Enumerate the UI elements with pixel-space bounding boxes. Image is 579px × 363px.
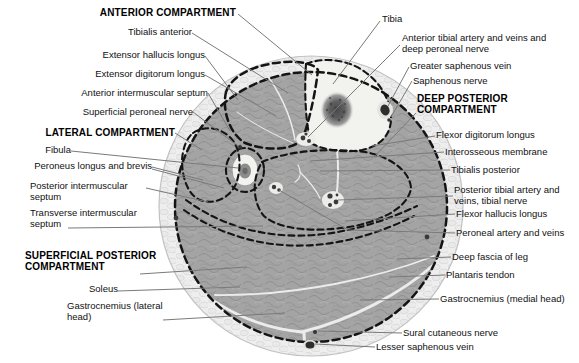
label-tibia: Tibia: [382, 14, 402, 25]
superficial-peroneal-nerve-dot: [238, 145, 242, 149]
label-peroneus-longus-and-brevis: Peroneus longus and brevis: [34, 161, 152, 172]
label-extensor-digitorum-longus: Extensor digitorum longus: [95, 69, 205, 80]
label-interosseous-membrane: Interosseous membrane: [445, 147, 547, 158]
label-superficial-posterior-compartment: SUPERFICIAL POSTERIOR COMPARTMENT: [25, 250, 183, 272]
label-extensor-hallucis-longus: Extensor hallucis longus: [103, 50, 205, 61]
label-saphenous-nerve: Saphenous nerve: [413, 76, 487, 87]
label-gastrocnemius-lateral-head: Gastrocnemius (lateral head): [67, 301, 163, 322]
label-tibialis-anterior: Tibialis anterior: [128, 27, 192, 38]
label-lesser-saphenous-vein: Lesser saphenous vein: [376, 342, 474, 353]
label-posterior-tibial-artery: Posterior tibial artery and veins, tibia…: [454, 185, 572, 206]
label-flexor-hallucis-longus: Flexor hallucis longus: [456, 209, 547, 220]
sural-cutaneous-nerve-dot: [313, 330, 317, 334]
label-tibialis-posterior: Tibialis posterior: [451, 165, 520, 176]
label-posterior-intermuscular-septum: Posterior intermuscular septum: [30, 181, 145, 202]
label-gastrocnemius-medial-head: Gastrocnemius (medial head): [440, 294, 565, 305]
label-greater-saphenous-vein: Greater saphenous vein: [410, 61, 511, 72]
label-peroneal-artery-and-veins: Peroneal artery and veins: [456, 228, 564, 239]
fibula-bone: [232, 154, 258, 186]
medial-fascia-vessel-dot: [425, 235, 430, 240]
label-flexor-digitorum-longus: Flexor digitorum longus: [436, 130, 535, 141]
label-deep-fascia-of-leg: Deep fascia of leg: [452, 252, 528, 263]
label-soleus: Soleus: [89, 284, 118, 295]
label-anterior-intermuscular-septum: Anterior intermuscular septum: [81, 88, 208, 99]
lesser-saphenous-vein-dot: [306, 342, 315, 349]
label-deep-posterior-compartment: DEEP POSTERIOR COMPARTMENT: [417, 93, 535, 115]
lateral-fascia-vessel-dot: [174, 216, 179, 221]
saphenous-nerve-dot: [387, 118, 391, 122]
label-anterior-compartment: ANTERIOR COMPARTMENT: [100, 7, 236, 18]
label-superficial-peroneal-nerve: Superficial peroneal nerve: [83, 107, 193, 118]
figure-canvas: ANTERIOR COMPARTMENT Tibialis anterior E…: [0, 0, 579, 363]
label-sural-cutaneous-nerve: Sural cutaneous nerve: [403, 328, 498, 339]
label-plantaris-tendon: Plantaris tendon: [446, 270, 515, 281]
label-fibula: Fibula: [45, 145, 71, 156]
label-lateral-compartment: LATERAL COMPARTMENT: [45, 127, 175, 138]
label-transverse-intermuscular-septum: Transverse intermuscular septum: [30, 208, 158, 229]
label-anterior-tibial-artery: Anterior tibial artery and veins and dee…: [402, 33, 557, 54]
